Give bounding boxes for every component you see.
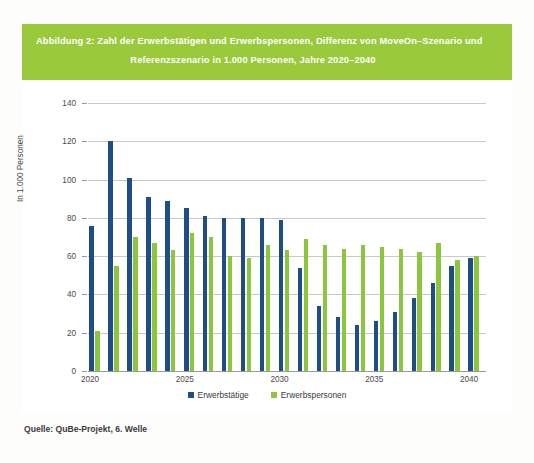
y-tick-mark bbox=[82, 103, 87, 104]
bar-erwerbspersonen bbox=[266, 245, 270, 371]
figure-title-line1: Abbildung 2: Zahl der Erwerbstätigen und… bbox=[36, 36, 483, 46]
bar-erwerbstaetige bbox=[184, 208, 188, 371]
x-tick-label: 2035 bbox=[365, 375, 383, 384]
bar-group bbox=[467, 103, 486, 371]
bar-erwerbstaetige bbox=[241, 218, 245, 371]
bar-group bbox=[334, 103, 353, 371]
legend-swatch-icon bbox=[188, 392, 194, 398]
legend-label: Erwerbstätige bbox=[198, 390, 249, 400]
y-tick-label: 0 bbox=[46, 367, 76, 376]
bar-erwerbstaetige bbox=[412, 298, 416, 371]
y-tick-label: 120 bbox=[46, 137, 76, 146]
bar-group bbox=[145, 103, 164, 371]
y-tick-label: 60 bbox=[46, 252, 76, 261]
bar-erwerbspersonen bbox=[380, 247, 384, 371]
y-axis-label: In 1.000 Personen bbox=[16, 135, 25, 202]
bar-erwerbstaetige bbox=[203, 216, 207, 371]
figure-title: Abbildung 2: Zahl der Erwerbstätigen und… bbox=[36, 32, 498, 70]
bar-erwerbspersonen bbox=[190, 233, 194, 371]
bar-group bbox=[448, 103, 467, 371]
bar-group bbox=[429, 103, 448, 371]
bar-group bbox=[410, 103, 429, 371]
bar-erwerbspersonen bbox=[323, 245, 327, 371]
bar-erwerbstaetige bbox=[374, 321, 378, 371]
bar-erwerbstaetige bbox=[165, 201, 169, 371]
x-tick-label: 2040 bbox=[460, 375, 478, 384]
bar-group bbox=[107, 103, 126, 371]
bar-erwerbspersonen bbox=[285, 250, 289, 371]
bar-group bbox=[202, 103, 221, 371]
bar-group bbox=[259, 103, 278, 371]
bar-group bbox=[315, 103, 334, 371]
chart-legend: ErwerbstätigeErwerbspersonen bbox=[22, 390, 512, 400]
bar-erwerbspersonen bbox=[209, 237, 213, 371]
bar-erwerbspersonen bbox=[474, 256, 478, 371]
bar-erwerbstaetige bbox=[298, 268, 302, 371]
y-tick-mark bbox=[82, 141, 87, 142]
bar-erwerbstaetige bbox=[449, 266, 453, 371]
bar-erwerbstaetige bbox=[468, 258, 472, 371]
bar-erwerbspersonen bbox=[342, 249, 346, 372]
bar-erwerbstaetige bbox=[89, 226, 93, 371]
bar-erwerbstaetige bbox=[336, 317, 340, 371]
bar-group bbox=[372, 103, 391, 371]
figure-title-line2: Referenzszenario in 1.000 Personen, Jahr… bbox=[36, 51, 498, 70]
bar-erwerbspersonen bbox=[455, 260, 459, 371]
x-tick-label: 2020 bbox=[81, 375, 99, 384]
y-tick-mark bbox=[82, 333, 87, 334]
bar-erwerbspersonen bbox=[152, 243, 156, 371]
bar-erwerbspersonen bbox=[247, 258, 251, 371]
bar-erwerbspersonen bbox=[436, 243, 440, 371]
bar-erwerbstaetige bbox=[279, 220, 283, 371]
bar-group bbox=[278, 103, 297, 371]
bar-group bbox=[240, 103, 259, 371]
bar-erwerbstaetige bbox=[146, 197, 150, 371]
bar-erwerbstaetige bbox=[222, 218, 226, 371]
bar-group bbox=[88, 103, 107, 371]
y-tick-mark bbox=[82, 256, 87, 257]
y-tick-mark bbox=[82, 218, 87, 219]
y-tick-label: 20 bbox=[46, 328, 76, 337]
chart-container: In 1.000 Personen 020406080100120140 202… bbox=[22, 84, 512, 414]
x-tick-label: 2030 bbox=[270, 375, 288, 384]
bar-erwerbspersonen bbox=[304, 239, 308, 371]
bar-erwerbstaetige bbox=[108, 141, 112, 371]
legend-item: Erwerbstätige bbox=[188, 390, 249, 400]
bar-group bbox=[164, 103, 183, 371]
x-tick-label: 2025 bbox=[176, 375, 194, 384]
bar-group bbox=[353, 103, 372, 371]
bar-erwerbstaetige bbox=[431, 283, 435, 371]
bar-group bbox=[391, 103, 410, 371]
bar-group bbox=[183, 103, 202, 371]
bar-erwerbspersonen bbox=[133, 237, 137, 371]
bar-series-group bbox=[88, 103, 486, 371]
y-tick-mark bbox=[82, 294, 87, 295]
legend-swatch-icon bbox=[271, 392, 277, 398]
y-tick-label: 140 bbox=[46, 99, 76, 108]
legend-label: Erwerbspersonen bbox=[281, 390, 347, 400]
y-tick-label: 100 bbox=[46, 175, 76, 184]
x-axis-line bbox=[88, 371, 486, 372]
bar-erwerbstaetige bbox=[260, 218, 264, 371]
bar-erwerbstaetige bbox=[317, 306, 321, 371]
plot-area bbox=[88, 103, 486, 371]
bar-erwerbspersonen bbox=[399, 249, 403, 372]
source-note: Quelle: QuBe-Projekt, 6. Welle bbox=[24, 424, 147, 434]
bar-erwerbspersonen bbox=[171, 250, 175, 371]
figure-page: Abbildung 2: Zahl der Erwerbstätigen und… bbox=[0, 0, 534, 463]
y-tick-mark bbox=[82, 371, 87, 372]
bar-erwerbstaetige bbox=[393, 312, 397, 371]
y-tick-label: 80 bbox=[46, 213, 76, 222]
bar-group bbox=[296, 103, 315, 371]
bar-erwerbstaetige bbox=[127, 178, 131, 371]
bar-erwerbspersonen bbox=[417, 252, 421, 371]
figure-header-band: Abbildung 2: Zahl der Erwerbstätigen und… bbox=[22, 24, 512, 80]
bar-group bbox=[126, 103, 145, 371]
legend-item: Erwerbspersonen bbox=[271, 390, 347, 400]
y-tick-mark bbox=[82, 180, 87, 181]
bar-erwerbspersonen bbox=[361, 245, 365, 371]
bar-erwerbspersonen bbox=[114, 266, 118, 371]
bar-erwerbstaetige bbox=[355, 325, 359, 371]
bar-group bbox=[221, 103, 240, 371]
bar-erwerbspersonen bbox=[95, 331, 99, 371]
